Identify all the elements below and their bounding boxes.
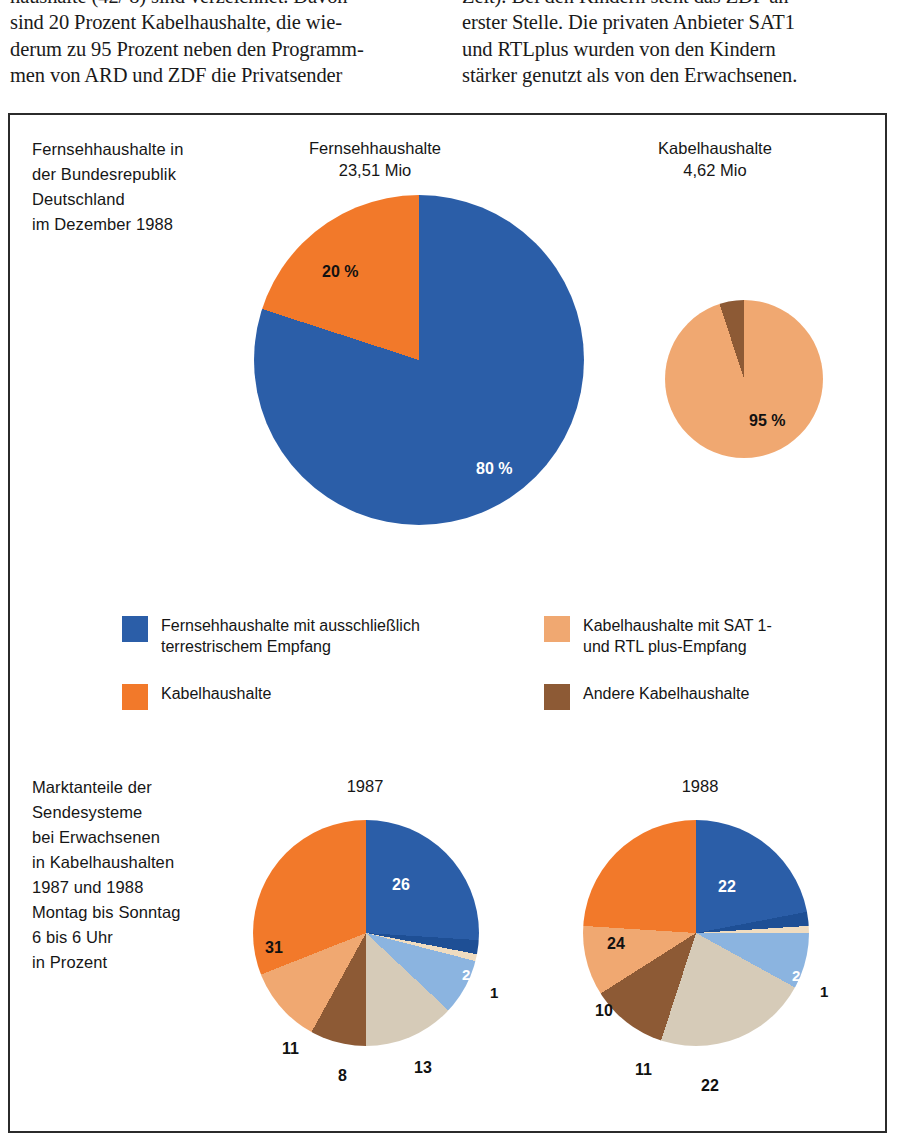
legend-swatch-andere-kabel (544, 684, 570, 710)
article-column-right: Zeit). Bei den Kindern steht das ZDF an … (462, 0, 882, 89)
pie-1987-label-rtlplus: 8 (338, 1067, 347, 1085)
article-line-clipped: haushalte (42/ 8) sind verzeichnet. Davo… (10, 0, 430, 9)
legend-swatch-kabelhaushalte (122, 684, 148, 710)
legend-label-sat-rtl: Kabelhaushalte mit SAT 1- und RTL plus-E… (583, 615, 772, 657)
pie-1988-label-zdf: 2 (792, 967, 800, 984)
pie-chart-fernsehhaushalte (254, 195, 584, 525)
infographic-frame: Fernsehhaushalte in der Bundesrepublik D… (8, 113, 887, 1133)
legend-swatch-terrestrisch (122, 616, 148, 642)
pie-1988-label-sonstige: 8 (768, 1022, 777, 1040)
pie-1988-label-sat1: 22 (701, 1077, 719, 1095)
article-line: men von ARD und ZDF die Privatsender (10, 62, 430, 89)
pie-1988-label-dritte: 1 (820, 983, 828, 1000)
article-line: derum zu 95 Prozent neben den Programm- (10, 36, 430, 63)
article-line: erster Stelle. Die privaten Anbieter SAT… (462, 9, 882, 36)
pie-1988-label-rtlplus: 11 (635, 1061, 652, 1079)
pie-slice-label-sat-rtl: 95 % (749, 412, 785, 430)
article-line-clipped: Zeit). Bei den Kindern steht das ZDF an (462, 0, 882, 9)
article-line: und RTLplus wurden von den Kindern (462, 36, 882, 63)
article-line: stärker genutzt als von den Erwachsenen. (462, 62, 882, 89)
pie-1987-label-uebrige: 31 (265, 939, 283, 957)
pie-1988-label-uebrige: 24 (607, 935, 625, 953)
article-line: sind 20 Prozent Kabelhaushalte, die wie- (10, 9, 430, 36)
pie-1987-label-weitere: 11 (282, 1040, 299, 1058)
top-right-pie-title: Kabelhaushalte 4,62 Mio (600, 137, 830, 181)
bottom-left-pie-title: 1987 (265, 775, 465, 797)
pie-slice-label-terrestrisch: 80 % (476, 460, 512, 478)
pie-1987-label-ard: 26 (392, 876, 410, 894)
legend-label-terrestrisch: Fernsehhaushalte mit ausschließlich terr… (161, 615, 420, 657)
pie-1988-label-ard: 22 (718, 878, 736, 896)
legend-item-andere-kabel: Andere Kabelhaushalte (544, 683, 874, 710)
pie-chart-kabelhaushalte (665, 300, 823, 458)
article-text: haushalte (42/ 8) sind verzeichnet. Davo… (0, 0, 901, 110)
bottom-section-caption: Marktanteile der Sendesysteme bei Erwach… (32, 775, 272, 975)
legend-label-andere-kabel: Andere Kabelhaushalte (583, 683, 749, 704)
pie-1987-label-sonstige: 8 (439, 1023, 448, 1041)
article-column-left: haushalte (42/ 8) sind verzeichnet. Davo… (10, 0, 430, 89)
legend-item-sat-rtl: Kabelhaushalte mit SAT 1- und RTL plus-E… (544, 615, 874, 657)
legend-item-terrestrisch: Fernsehhaushalte mit ausschließlich terr… (122, 615, 452, 657)
legend-label-kabelhaushalte: Kabelhaushalte (161, 683, 271, 704)
top-section-caption: Fernsehhaushalte in der Bundesrepublik D… (32, 137, 262, 237)
pie-1987-label-zdf: 2 (462, 966, 470, 983)
pie-slice-label-kabelhaushalte: 20 % (322, 263, 358, 281)
legend-item-kabelhaushalte: Kabelhaushalte (122, 683, 452, 710)
pie-1987-label-dritte: 1 (490, 984, 498, 1001)
bottom-right-pie-title: 1988 (600, 775, 800, 797)
pie-1987-label-sat1: 13 (414, 1059, 432, 1077)
legend-swatch-sat-rtl (544, 616, 570, 642)
pie-1988-label-weitere: 10 (595, 1002, 613, 1020)
top-left-pie-title: Fernsehhaushalte 23,51 Mio (245, 137, 505, 181)
pie-chart-1987 (253, 820, 479, 1046)
pie-chart-1988 (583, 820, 809, 1046)
